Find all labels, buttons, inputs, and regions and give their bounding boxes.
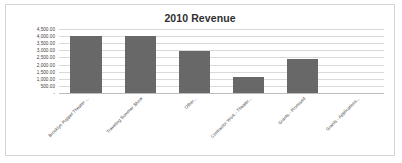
chart-container: 2010 Revenue 4,500.004,000.003,500.003,0…	[5, 4, 395, 156]
y-axis-tick-label: 500.00	[41, 83, 55, 88]
bar	[233, 77, 264, 93]
y-axis-tick-label: 1,500.00	[37, 69, 55, 74]
y-axis-tick-label: -	[53, 91, 55, 96]
x-axis-tick-label: Grants - Promised	[277, 96, 306, 125]
y-axis-tick-label: 2,500.00	[37, 55, 55, 60]
y-axis-tick-label: 3,500.00	[37, 41, 55, 46]
x-axis-tick: Brooklyn Puppet Theater ...	[59, 94, 113, 152]
x-axis-tick: Grants - Promised	[276, 94, 330, 152]
x-axis-tick: Contractor Work - Theater...	[222, 94, 276, 152]
bar	[125, 36, 156, 93]
x-axis-tick: Other...	[167, 94, 221, 152]
x-axis-tick-label: Other...	[184, 96, 198, 110]
y-axis-tick-label: 4,000.00	[37, 34, 55, 39]
bar	[70, 36, 101, 93]
bar-column	[70, 29, 101, 93]
y-axis-tick-label: 4,500.00	[37, 27, 55, 32]
bar-column	[341, 29, 372, 93]
bar-series	[59, 29, 384, 93]
bar-column	[179, 29, 210, 93]
x-axis-tick-label: Grants - Applications...	[325, 96, 361, 132]
bar-column	[233, 29, 264, 93]
x-axis: Brooklyn Puppet Theater ...Traveling Sum…	[59, 94, 384, 152]
bar-column	[287, 29, 318, 93]
bar	[179, 51, 210, 93]
x-axis-tick-label: Brooklyn Puppet Theater ...	[47, 96, 89, 138]
x-axis-tick: Grants - Applications...	[330, 94, 384, 152]
chart-title: 2010 Revenue	[6, 12, 394, 24]
y-axis-tick-label: 2,000.00	[37, 62, 55, 67]
x-axis-tick: Traveling Summer Show	[113, 94, 167, 152]
bar	[287, 59, 318, 93]
y-axis-tick-label: 3,000.00	[37, 48, 55, 53]
y-axis-tick-label: 1,000.00	[37, 76, 55, 81]
bar-column	[125, 29, 156, 93]
y-axis: 4,500.004,000.003,500.003,000.002,500.00…	[8, 29, 56, 93]
